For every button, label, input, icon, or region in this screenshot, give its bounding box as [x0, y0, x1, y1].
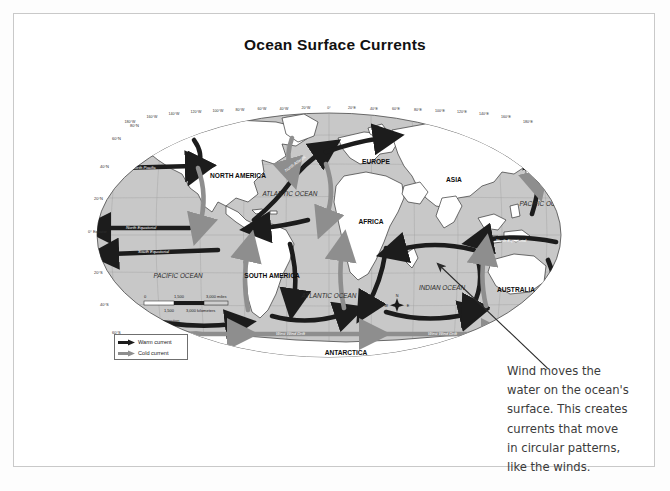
projection-note: Robinson projection: [144, 318, 179, 323]
continent-label-north-america: NORTH AMERICA: [210, 172, 266, 179]
ocean-label-pacific-west: PACIFIC OCEAN: [153, 272, 203, 279]
lon-label: 120°W: [191, 110, 202, 114]
continent-label-asia: ASIA: [446, 176, 462, 183]
page-frame: Ocean Surface Currents: [13, 13, 655, 467]
continent-label-antarctica: ANTARCTICA: [325, 349, 368, 356]
legend-label-cold-current: Cold current: [138, 350, 168, 356]
lon-label: 40°E: [370, 107, 378, 111]
current-label: North Equatorial: [126, 225, 157, 230]
lon-label: 60°W: [258, 107, 267, 111]
lon-label: 100°E: [435, 109, 445, 113]
lat-label: 60°N: [112, 136, 121, 141]
scale-km-tick-2: 3,000 kilometers: [186, 308, 215, 313]
lon-label: 100°W: [213, 109, 224, 113]
compass-south: S: [396, 314, 399, 318]
continent-label-south-america: SOUTH AMERICA: [244, 272, 300, 279]
legend-item-cold-current: Cold current: [118, 348, 184, 358]
handwritten-annotation: Wind moves the water on the ocean's surf…: [507, 362, 657, 477]
lon-label: 40°W: [280, 107, 289, 111]
lat-label: 20°S: [94, 270, 103, 275]
annotation-line: currents that move: [507, 420, 657, 439]
continent-label-europe: EUROPE: [362, 158, 390, 165]
warm-current-arrow-icon: [118, 339, 135, 346]
map-legend: Warm current Cold current: [114, 334, 188, 360]
legend-item-warm-current: Warm current: [118, 337, 184, 347]
current-label: North Pacific: [132, 165, 157, 170]
lon-label: 160°W: [147, 115, 158, 119]
lon-label: 0°: [327, 106, 331, 110]
lon-label: 160°E: [501, 115, 511, 119]
world-map-figure: North Pacific North Equatorial South Equ…: [86, 102, 586, 368]
ocean-label-indian: INDIAN OCEAN: [419, 284, 466, 291]
continent-label-africa: AFRICA: [359, 218, 384, 225]
annotation-line: water on the ocean's: [507, 381, 657, 400]
lat-label: 20°N: [94, 196, 103, 201]
current-label: West Wind Drift: [428, 331, 458, 336]
current-label: West Wind Drift: [276, 331, 306, 336]
current-label: North Equatorial: [496, 238, 527, 243]
page-title: Ocean Surface Currents: [14, 36, 656, 54]
lon-label: 80°E: [414, 108, 422, 112]
annotation-line: surface. This creates: [507, 400, 657, 419]
legend-label-warm-current: Warm current: [138, 339, 172, 345]
annotation-line: in circular patterns,: [507, 439, 657, 458]
continent-label-australia: AUSTRALIA: [497, 286, 535, 293]
scale-miles-tick-2: 3,000 miles: [206, 294, 226, 299]
ocean-label-atlantic-north: ATLANTIC OCEAN: [262, 190, 318, 197]
lon-label: 120°E: [457, 110, 467, 114]
lon-label: 180°E: [523, 120, 533, 124]
lon-label: 140°W: [169, 112, 180, 116]
scale-km-tick-1: 1,500: [164, 308, 175, 313]
lon-label: 20°W: [302, 106, 311, 110]
compass-east: E: [407, 304, 410, 308]
cold-current-arrow-icon: [118, 350, 135, 357]
lon-label: 180°W: [125, 120, 136, 124]
annotation-line: Wind moves the: [507, 362, 657, 381]
scale-miles-tick-1: 1,500: [174, 294, 185, 299]
ocean-label-atlantic-south: ATLANTIC OCEAN: [301, 292, 357, 299]
lat-label: 40°N: [100, 164, 109, 169]
lon-label: 20°E: [348, 106, 356, 110]
annotation-line: like the winds.: [507, 458, 657, 477]
lon-label: 60°E: [392, 107, 400, 111]
lon-label: 80°W: [236, 108, 245, 112]
compass-north: N: [396, 294, 399, 298]
lat-label: 0° Equator: [88, 229, 108, 234]
compass-west: W: [384, 304, 388, 308]
current-label: South Equatorial: [138, 249, 170, 254]
ocean-label-pacific-east: PACIFIC OCEAN: [519, 200, 569, 207]
lat-label: 40°S: [100, 302, 109, 307]
lon-label: 140°E: [479, 112, 489, 116]
